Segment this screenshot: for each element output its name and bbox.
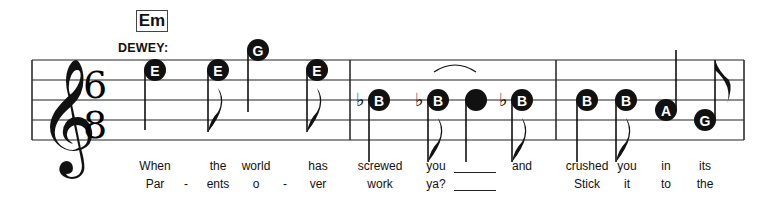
flat-icon: ♭	[499, 89, 508, 110]
lyric-verse1: the	[210, 159, 227, 173]
note-letter: B	[582, 93, 592, 109]
note-letter: B	[621, 93, 631, 109]
flat-icon: ♭	[415, 89, 424, 110]
lyric-verse2: -	[184, 177, 188, 191]
note-letter: G	[700, 113, 711, 129]
note-letter: A	[661, 103, 671, 119]
lyric-verse2: ya?	[426, 177, 445, 191]
chord-symbol: Em	[136, 10, 168, 32]
lyric-verse1: you	[426, 159, 445, 173]
lyric-verse2: ents	[207, 177, 230, 191]
note-flag	[307, 88, 321, 132]
lyric-verse2: -	[283, 177, 287, 191]
note-flag	[715, 60, 731, 104]
lyric-verse2: to	[661, 177, 671, 191]
note-letter: B	[433, 93, 443, 109]
lyric-verse2: o	[253, 177, 260, 191]
lyric-verse1: has	[308, 159, 327, 173]
lyric-verse1: its	[699, 159, 711, 173]
lyric-verse2: work	[367, 177, 392, 191]
lyric-verse2: Stick	[574, 177, 600, 191]
time-signature-top: 6	[83, 63, 107, 107]
lyric-verse1: screwed	[358, 159, 403, 173]
notehead	[465, 89, 487, 111]
lyric-extender-line	[454, 172, 496, 173]
lyric-extender-line	[454, 190, 496, 191]
lyric-verse2: the	[697, 177, 714, 191]
note-letter: B	[517, 93, 527, 109]
note-letter: E	[312, 63, 321, 79]
music-staff: 𝄞68EEGE♭B♭B♭BBBAG	[0, 0, 767, 207]
note-letter: G	[253, 43, 264, 59]
note-letter: B	[374, 93, 384, 109]
note-letter: E	[213, 63, 222, 79]
flat-icon: ♭	[356, 89, 365, 110]
lyric-verse1: you	[617, 159, 636, 173]
lyric-verse1: crushed	[566, 159, 609, 173]
lyric-verse2: Par	[146, 177, 165, 191]
lyric-verse1: world	[242, 159, 271, 173]
note-letter: E	[150, 63, 159, 79]
lyric-verse2: ver	[310, 177, 327, 191]
lyric-verse2: it	[624, 177, 630, 191]
note-flag	[208, 88, 222, 132]
lyric-verse1: and	[512, 159, 532, 173]
singer-label: DEWEY:	[118, 41, 168, 55]
lyric-verse1: When	[139, 159, 170, 173]
lyric-verse1: in	[661, 159, 670, 173]
tie-arc	[434, 65, 476, 72]
time-signature-bottom: 8	[83, 103, 107, 147]
